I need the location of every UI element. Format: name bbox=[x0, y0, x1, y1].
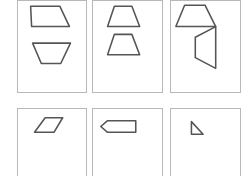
panel-3 bbox=[170, 0, 241, 93]
rotated-trapezoid-icon bbox=[171, 1, 240, 92]
panel-1 bbox=[17, 0, 87, 93]
option-3[interactable] bbox=[170, 108, 241, 176]
parallelogram-icon bbox=[18, 109, 86, 176]
triangle-icon bbox=[171, 109, 240, 176]
pentagon-arrow-icon bbox=[93, 109, 162, 176]
trapezoid-pair-icon bbox=[18, 1, 86, 92]
option-2[interactable] bbox=[92, 108, 163, 176]
option-1[interactable] bbox=[17, 108, 87, 176]
trapezoid-stack-icon bbox=[93, 1, 162, 92]
panel-2 bbox=[92, 0, 163, 93]
